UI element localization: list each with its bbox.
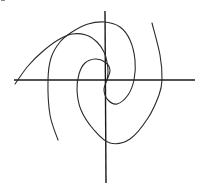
spiral-arm-3 [77, 23, 162, 144]
scan-speck [1, 0, 5, 1]
spiral-curves [15, 22, 162, 144]
spiral-plot [0, 0, 205, 191]
spiral-arm-2 [48, 22, 135, 140]
